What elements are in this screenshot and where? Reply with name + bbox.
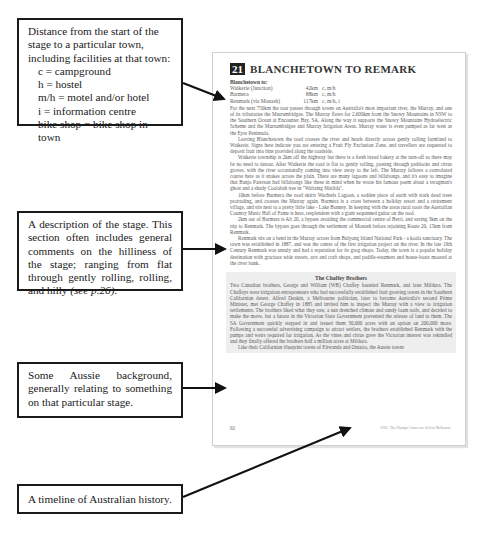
legend-motel-hotel: m/h = motel and/or hotel <box>28 91 172 104</box>
callout-text: A timeline of Australian history. <box>28 493 172 505</box>
callout-background: Some Aussie background, generally relati… <box>17 362 183 418</box>
stage-title: BLANCHETOWN TO REMARK <box>250 66 416 72</box>
callout-text: stage to a particular town, <box>28 38 172 51</box>
stage-paragraph: 2km out of Barmera is Alt 20, a bypass a… <box>230 216 452 235</box>
stage-paragraph: Leaving Blanchetown the road crosses the… <box>230 136 452 155</box>
callout-text: Some Aussie background, generally relati… <box>28 369 172 408</box>
callout-description: A description of the stage. This section… <box>17 211 183 291</box>
page-number: 92 <box>230 425 235 431</box>
legend-campground: c = campground <box>28 65 172 78</box>
callout-distances: Distance from the start of the stage to … <box>17 18 183 126</box>
stage-paragraph: 10km before Barmera the road skirts Wach… <box>230 192 452 217</box>
background-box: The Chaffey Brothers Two Canadian brothe… <box>226 272 456 352</box>
stage-number-badge: 21 <box>230 63 245 75</box>
page-footer: 92 1938 - The Olympic Games are held in … <box>230 425 451 431</box>
distance-row: Renmark (via Monash) 117km c, m/h, i <box>230 98 452 104</box>
background-paragraph: Two Canadian brothers, George and Willia… <box>230 282 452 344</box>
stage-paragraph: Renmark sits on a bend in the Murray acr… <box>230 235 452 266</box>
distance-town: Renmark (via Monash) <box>230 98 300 104</box>
page-content: 21 BLANCHETOWN TO REMARK Blanchetown to:… <box>230 63 452 353</box>
distance-facilities: c, m/h, i <box>322 98 340 104</box>
background-paragraph: Like their Californian blueprint towns o… <box>230 344 452 350</box>
callout-text: including facilities at that town: <box>28 52 172 65</box>
background-box-title: The Chaffey Brothers <box>230 275 452 281</box>
callout-text: Distance from the start of the <box>28 25 172 38</box>
distance-km: 117km <box>300 98 318 104</box>
stage-paragraph: Waikerie township is 2km off the highway… <box>230 154 452 191</box>
callout-timeline: A timeline of Australian history. <box>17 484 183 514</box>
legend-information-centre: i = information centre <box>28 105 172 118</box>
callout-page-reference: (see p.26). <box>70 284 117 296</box>
sample-page: 21 BLANCHETOWN TO REMARK Blanchetown to:… <box>212 52 466 446</box>
legend-hostel: h = hostel <box>28 78 172 91</box>
legend-bike-shop: bike shop = bike shop in town <box>28 118 172 145</box>
timeline-entry: 1938 - The Olympic Games are held in Mel… <box>380 425 451 431</box>
stage-paragraph: For the next 750km the tour passes throu… <box>230 105 452 136</box>
stage-heading: 21 BLANCHETOWN TO REMARK <box>230 63 452 75</box>
